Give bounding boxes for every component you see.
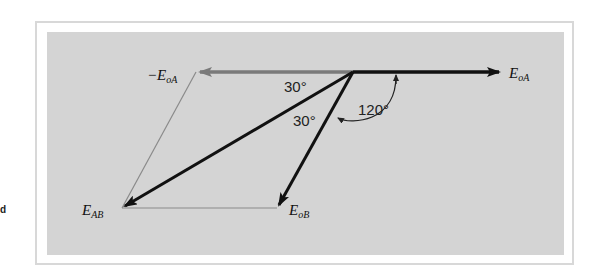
phasor-diagram: EoA −EoA EAB EoB 30° 30° 120° [0, 0, 604, 280]
label-e-ob: EoB [288, 202, 309, 220]
angle-label-120: 120° [358, 101, 389, 118]
label-neg-e-oa: −EoA [147, 67, 178, 85]
angle-label-30-mid: 30° [293, 112, 316, 129]
label-e-oa: EoA [508, 65, 530, 83]
angle-label-30-top: 30° [284, 78, 307, 95]
label-e-ab: EAB [81, 202, 103, 220]
